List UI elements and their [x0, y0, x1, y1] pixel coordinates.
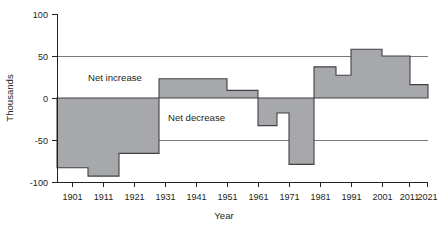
x-tick-label-1951: 1951	[217, 192, 237, 202]
x-tick-label-1941: 1941	[186, 192, 206, 202]
x-tick-label-1921: 1921	[124, 192, 144, 202]
y-tick-label-100: 100	[33, 10, 48, 20]
x-tick-label-1961: 1961	[248, 192, 268, 202]
y-axis: 100 50 0 -50 -100 Thousands	[4, 10, 58, 188]
x-tick-label-1981: 1981	[310, 192, 330, 202]
y-tick-label-50: 50	[38, 52, 48, 62]
x-tick-label-2001: 2001	[372, 192, 392, 202]
x-tick-label-2021: 2021	[417, 192, 437, 202]
net-migration-step-area	[57, 49, 428, 176]
y-tick-label-0: 0	[43, 94, 48, 104]
annotation-net-increase: Net increase	[88, 72, 142, 83]
chart-container: 100 50 0 -50 -100 Thousands 1901 1911 19	[0, 0, 438, 241]
x-tick-label-2011: 2011	[400, 192, 420, 202]
y-tick-label-minus-100: -100	[30, 178, 48, 188]
y-tick-label-minus-50: -50	[35, 136, 48, 146]
x-tick-label-1971: 1971	[279, 192, 299, 202]
annotation-net-decrease: Net decrease	[168, 112, 225, 123]
x-axis-title: Year	[214, 210, 234, 221]
plot-data	[57, 49, 428, 176]
x-tick-label-1911: 1911	[94, 192, 114, 202]
x-tick-label-1931: 1931	[155, 192, 175, 202]
step-chart: 100 50 0 -50 -100 Thousands 1901 1911 19	[0, 0, 438, 241]
x-tick-label-1991: 1991	[341, 192, 361, 202]
x-tick-label-1901: 1901	[62, 192, 82, 202]
y-axis-title: Thousands	[4, 74, 15, 122]
x-axis: 1901 1911 1921 1931 1941 1951 1961 1971 …	[57, 182, 438, 221]
